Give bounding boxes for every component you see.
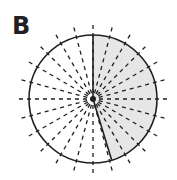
dashed-ray <box>39 45 88 94</box>
center-dot <box>90 96 96 102</box>
dashed-ray <box>55 33 90 94</box>
dashed-ray <box>27 102 88 137</box>
dashed-ray <box>39 103 88 152</box>
radial-sector-diagram <box>0 0 177 180</box>
dashed-ray <box>27 61 88 96</box>
dashed-ray <box>55 104 90 165</box>
shaded-sector <box>93 35 157 160</box>
